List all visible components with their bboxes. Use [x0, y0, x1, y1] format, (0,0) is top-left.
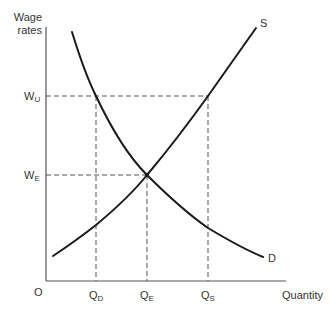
x-axis-label: Quantity	[282, 289, 323, 301]
supply-label: S	[260, 17, 267, 29]
qd-label: QD	[89, 289, 104, 303]
supply-curve	[53, 28, 256, 256]
y-axis-label-line1: Wage	[14, 11, 42, 23]
qe-label: QE	[140, 289, 154, 303]
wu-label: WU	[24, 90, 40, 104]
demand-curve	[72, 32, 263, 257]
equilibrium-point	[145, 173, 149, 177]
wage-supply-demand-chart: Wage rates WU WE O QD QE QS Quantity S D	[0, 0, 330, 314]
we-label: WE	[24, 169, 40, 183]
y-axis-label-line2: rates	[18, 24, 43, 36]
origin-label: O	[34, 286, 43, 298]
demand-label: D	[268, 252, 276, 264]
qs-label: QS	[201, 289, 215, 303]
